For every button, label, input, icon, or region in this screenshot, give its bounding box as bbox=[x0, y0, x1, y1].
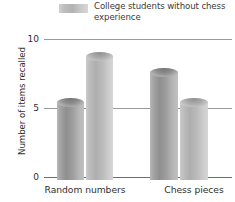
legend-swatch-college-students bbox=[59, 4, 88, 13]
bar-cap bbox=[57, 98, 84, 107]
plot-area: 10 5 0 bbox=[44, 36, 232, 180]
bar-cap bbox=[86, 52, 113, 61]
x-category-label-random-numbers: Random numbers bbox=[45, 184, 126, 195]
bar-random-numbers-masters bbox=[57, 98, 84, 180]
bar-body bbox=[180, 102, 208, 180]
gridline-10: 10 bbox=[44, 39, 232, 40]
bar-body bbox=[150, 72, 178, 180]
bar-chart: College students without chess experienc… bbox=[0, 0, 235, 202]
bar-random-numbers-students bbox=[86, 52, 113, 180]
y-tick-label-5: 5 bbox=[33, 103, 39, 113]
bar-cap bbox=[150, 68, 178, 77]
chart-legend: College students without chess experienc… bbox=[59, 1, 235, 22]
x-category-label-chess-pieces: Chess pieces bbox=[164, 184, 223, 195]
y-axis-title: Number of items recalled bbox=[17, 31, 27, 171]
bar-chess-pieces-students bbox=[180, 98, 208, 180]
bar-body bbox=[57, 102, 84, 180]
bar-body bbox=[86, 56, 113, 180]
legend-label-college-students: College students without chess experienc… bbox=[94, 1, 234, 22]
y-tick-label-10: 10 bbox=[28, 34, 39, 44]
y-tick-label-0: 0 bbox=[33, 172, 39, 182]
bar-cap bbox=[180, 98, 208, 107]
bar-chess-pieces-masters bbox=[150, 68, 178, 180]
